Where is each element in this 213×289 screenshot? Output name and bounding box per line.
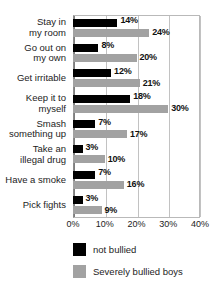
category-label-line: myself <box>26 104 66 115</box>
gridline-40 <box>200 16 201 217</box>
bar-group: 3%10% <box>73 142 200 167</box>
legend-item: not bullied <box>0 238 213 260</box>
bar-severely-bullied <box>73 206 102 214</box>
bar-value-label: 3% <box>86 193 99 203</box>
bar-not-bullied <box>73 171 95 179</box>
category-label-line: my own <box>24 53 66 64</box>
bar-value-label: 9% <box>105 205 118 215</box>
bar-value-label: 20% <box>140 52 157 62</box>
bar-severely-bullied <box>73 29 149 37</box>
category-label: Smashsomething up <box>0 117 69 142</box>
legend-item: Severely bullied boys <box>0 260 213 282</box>
category-axis-labels: Stay inmy roomGo out onmy ownGet irritab… <box>0 15 69 218</box>
bar-not-bullied <box>73 44 98 52</box>
bar-not-bullied <box>73 19 117 27</box>
category-label: Keep it tomyself <box>0 91 69 116</box>
chart-legend: not bulliedSeverely bullied boys <box>0 238 213 282</box>
bar-value-label: 18% <box>133 91 150 101</box>
bar-not-bullied <box>73 196 83 204</box>
category-label-line: illegal drug <box>20 155 66 166</box>
bar-severely-bullied <box>73 105 168 113</box>
category-label-line: Pick fights <box>23 200 66 211</box>
category-label: Get irritable <box>0 66 69 91</box>
bar-group: 3%9% <box>73 193 200 218</box>
bar-not-bullied <box>73 69 111 77</box>
bar-not-bullied <box>73 120 95 128</box>
bar-rows: 14%24%8%20%12%21%18%30%7%17%3%10%7%16%3%… <box>73 15 200 218</box>
bar-value-label: 7% <box>98 117 111 127</box>
legend-label: not bullied <box>93 244 136 255</box>
bar-group: 7%16% <box>73 167 200 192</box>
category-label: Pick fights <box>0 193 69 218</box>
bar-severely-bullied <box>73 54 137 62</box>
bar-group: 7%17% <box>73 117 200 142</box>
bar-severely-bullied <box>73 130 127 138</box>
bar-group: 18%30% <box>73 91 200 116</box>
category-label-line: Get irritable <box>17 73 66 84</box>
bar-value-label: 14% <box>120 15 137 25</box>
category-label-line: Have a smoke <box>5 175 66 186</box>
legend-swatch-icon <box>73 243 86 256</box>
bar-value-label: 30% <box>171 103 188 113</box>
x-tick-label: 0% <box>66 219 79 229</box>
category-label: Go out onmy own <box>0 40 69 65</box>
category-label-line: my room <box>29 28 66 39</box>
bar-value-label: 7% <box>98 167 111 177</box>
x-axis-tick-labels: 0%10%20%30%40% <box>73 219 200 233</box>
bar-group: 8%20% <box>73 40 200 65</box>
category-label-line: Take an <box>20 144 66 155</box>
category-label: Take anillegal drug <box>0 142 69 167</box>
x-tick-label: 20% <box>127 219 145 229</box>
x-tick-label: 40% <box>191 219 209 229</box>
category-label: Stay inmy room <box>0 15 69 40</box>
bar-chart: Stay inmy roomGo out onmy ownGet irritab… <box>0 0 213 289</box>
category-label-line: something up <box>9 129 66 140</box>
legend-label: Severely bullied boys <box>93 266 183 277</box>
category-label: Have a smoke <box>0 167 69 192</box>
bar-severely-bullied <box>73 79 140 87</box>
bar-not-bullied <box>73 145 83 153</box>
bar-value-label: 10% <box>108 154 125 164</box>
bar-not-bullied <box>73 95 130 103</box>
bar-group: 14%24% <box>73 15 200 40</box>
bar-severely-bullied <box>73 181 124 189</box>
bar-value-label: 12% <box>114 66 131 76</box>
bar-value-label: 21% <box>143 78 160 88</box>
x-tick-label: 10% <box>96 219 114 229</box>
bar-value-label: 8% <box>101 40 114 50</box>
bar-severely-bullied <box>73 155 105 163</box>
bar-value-label: 24% <box>152 27 169 37</box>
bar-value-label: 16% <box>127 179 144 189</box>
plot-wrapper: Stay inmy roomGo out onmy ownGet irritab… <box>0 0 213 232</box>
bar-group: 12%21% <box>73 66 200 91</box>
x-tick-label: 30% <box>159 219 177 229</box>
legend-swatch-icon <box>73 265 86 278</box>
bar-value-label: 17% <box>130 129 147 139</box>
bar-value-label: 3% <box>86 142 99 152</box>
